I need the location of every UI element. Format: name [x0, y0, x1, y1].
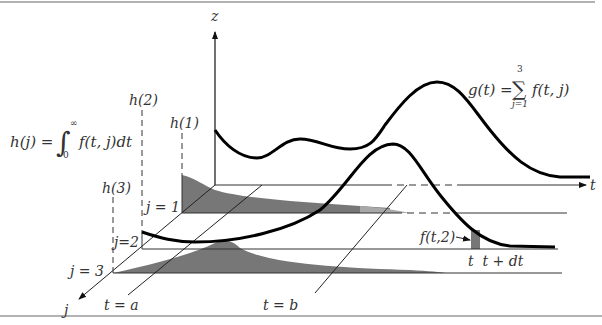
interval-label: t t + dt — [468, 253, 524, 269]
g-equation-rhs: f(t, j) — [531, 81, 570, 99]
height-label-h3: h(3) — [102, 180, 131, 196]
sum-lower-limit: j=1 — [510, 99, 528, 109]
plane-label-j3: j = 3 — [67, 263, 104, 279]
j1-distribution-dark — [182, 175, 390, 213]
t-b-label: t = b — [263, 297, 298, 313]
integral-lower-limit: 0 — [63, 150, 69, 160]
g-equation-lhs: g(t) = — [468, 81, 517, 99]
sum-upper-limit: 3 — [517, 64, 523, 74]
j1-distribution-light — [360, 206, 410, 213]
height-label-h1: h(1) — [170, 115, 199, 131]
sum-sign: ∑ — [512, 77, 527, 101]
integral-upper-limit: ∞ — [70, 118, 78, 128]
j3-distribution — [113, 241, 447, 273]
t-axis-label: t — [590, 177, 596, 193]
plane-label-j2: j=2 — [111, 234, 139, 250]
slice-label: f(t,2) — [419, 229, 455, 245]
diagram-canvas: z t j j = 1 j=2 j = 3 h(1) h(2) h(3) t =… — [0, 0, 602, 325]
h-equation-integrand: f(t, j)dt — [78, 133, 133, 151]
height-label-h2: h(2) — [129, 92, 158, 108]
plane-label-j1: j = 1 — [143, 199, 180, 215]
t-a-label: t = a — [104, 297, 139, 313]
h-equation-lhs: h(j) = — [10, 133, 58, 151]
slice-arrow — [456, 237, 470, 240]
z-axis-label: z — [210, 8, 219, 24]
